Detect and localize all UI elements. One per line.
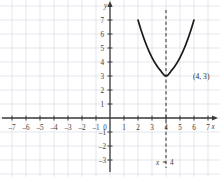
y-tick-label: –1 [98,129,107,137]
x-axis-tick-labels-negative: –7 –6 –5 –4 –3 –2 –1 [7,124,100,132]
axis-of-symmetry-label: x = 4 [155,159,174,167]
x-axis-label: x [210,123,215,131]
y-tick-label: 1 [100,101,104,109]
x-tick-label: 1 [122,124,126,132]
svg-text:x = 4: x = 4 [155,159,174,167]
vertex-point-label: (4, 3) [193,72,210,81]
y-axis-tick-labels-negative: –1 –2 –3 [98,129,107,165]
y-tick-label: 5 [100,45,104,53]
parabola-graph-figure: –7 –6 –5 –4 –3 –2 –1 0 1 2 3 4 5 6 7 7 6… [0,0,220,177]
x-tick-label: 2 [136,124,140,132]
symmetry-equals: = [163,159,167,167]
symmetry-variable: x [155,159,160,167]
y-tick-label: 3 [100,73,104,81]
x-tick-label: 7 [206,124,210,132]
y-tick-label: 6 [100,31,104,39]
y-tick-label: –3 [98,157,107,165]
x-tick-label: –4 [49,124,58,132]
x-tick-label: –7 [7,124,16,132]
coordinate-plane-svg: –7 –6 –5 –4 –3 –2 –1 0 1 2 3 4 5 6 7 7 6… [0,0,220,177]
x-tick-label: 3 [150,124,154,132]
y-tick-label: 2 [100,87,104,95]
y-tick-label: –2 [98,143,107,151]
y-tick-label: 7 [100,17,104,25]
y-axis-arrowhead [107,1,112,7]
y-axis-tick-labels-positive: 7 6 5 4 3 2 1 [100,17,104,109]
y-tick-label: 4 [100,59,104,67]
x-tick-label: –6 [21,124,30,132]
x-tick-label: –2 [77,124,86,132]
x-tick-label: 5 [178,124,182,132]
x-tick-label: 6 [192,124,196,132]
axis-lines [2,5,214,172]
symmetry-value: 4 [170,159,174,167]
x-tick-label: –3 [63,124,72,132]
x-axis-arrowhead [212,115,218,120]
x-tick-label: –5 [35,124,44,132]
